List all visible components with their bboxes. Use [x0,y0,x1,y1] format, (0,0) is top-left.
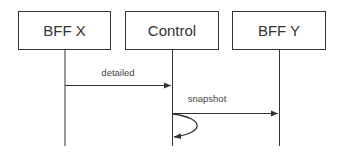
self-loop-arrow [173,114,197,137]
participant-bff-y: BFF Y [233,12,326,147]
participant-bff-x: BFF X [19,12,111,147]
message-detailed: detailed [65,67,171,86]
message-snapshot: snapshot [173,93,279,114]
sequence-diagram: BFF X Control BFF Y detailed snapshot [0,0,341,154]
message-self-loop [173,114,197,137]
message-label: snapshot [188,93,227,104]
participant-control: Control [126,12,219,147]
participant-label: BFF X [43,22,86,39]
message-label: detailed [101,67,134,78]
participant-label: BFF Y [258,22,300,39]
participant-label: Control [148,22,196,39]
